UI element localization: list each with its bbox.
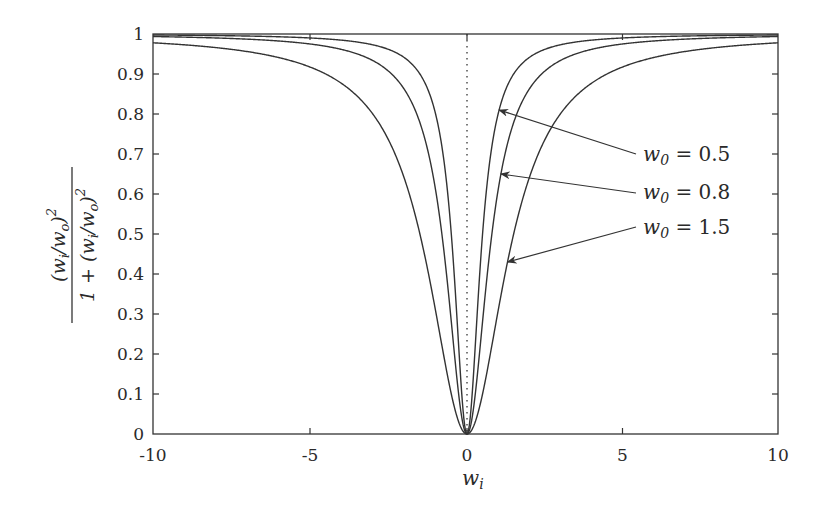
annotation-label: w0 = 1.5: [643, 215, 730, 241]
x-tick-label: 10: [767, 445, 789, 465]
annotation-label-subscript: 0: [660, 190, 669, 206]
annotation-label: w0 = 0.5: [643, 142, 730, 168]
x-axis-label-base: w: [462, 466, 479, 490]
y-tick-label: 0.4: [117, 264, 144, 284]
x-axis-ticks: -10-50510: [139, 34, 789, 465]
annotation-label-base: w: [643, 142, 660, 166]
annotation-label-base: w: [643, 180, 660, 204]
annotation-label: w0 = 0.8: [643, 180, 730, 206]
y-tick-label: 0: [133, 424, 144, 444]
y-tick-label: 1: [133, 24, 144, 44]
x-tick-label: -10: [139, 445, 166, 465]
x-axis-label: wi: [462, 466, 484, 492]
curve-annotations: w0 = 0.5w0 = 0.8w0 = 1.5: [499, 110, 730, 262]
y-tick-label: 0.2: [117, 344, 144, 364]
x-axis-label-subscript: i: [479, 476, 483, 492]
y-axis-label-numerator: (wi/wo)2: [44, 208, 72, 282]
annotation-arrow: [499, 110, 636, 154]
annotation-label-base: w: [643, 215, 660, 239]
y-tick-label: 0.1: [117, 384, 144, 404]
chart: -10-50510 00.10.20.30.40.50.60.70.80.91 …: [0, 0, 821, 529]
y-tick-label: 0.7: [117, 144, 144, 164]
annotation-label-subscript: 0: [660, 225, 669, 241]
y-tick-label: 0.6: [117, 184, 144, 204]
y-tick-label: 0.5: [117, 224, 144, 244]
x-tick-label: 0: [462, 445, 473, 465]
x-tick-label: 5: [617, 445, 628, 465]
y-axis-label-denominator: 1 + (wi/wo)2: [73, 188, 101, 302]
y-axis-label: (wi/wo)2 1 + (wi/wo)2: [44, 167, 101, 323]
annotation-arrow: [501, 174, 636, 193]
y-tick-label: 0.8: [117, 104, 144, 124]
x-tick-label: -5: [302, 445, 319, 465]
y-tick-label: 0.3: [117, 304, 144, 324]
annotation-label-value: = 0.5: [669, 142, 730, 166]
y-tick-label: 0.9: [117, 64, 144, 84]
annotation-arrow: [508, 227, 636, 262]
annotation-label-value: = 0.8: [669, 180, 730, 204]
annotation-label-value: = 1.5: [669, 215, 730, 239]
annotation-label-subscript: 0: [660, 152, 669, 168]
